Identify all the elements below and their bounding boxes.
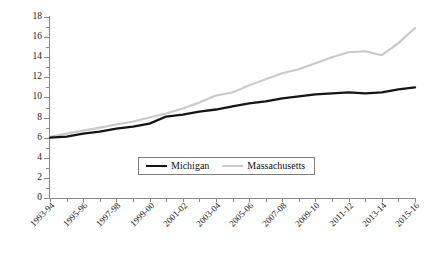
x-tick bbox=[398, 198, 399, 202]
y-tick-label: 10 bbox=[6, 92, 42, 102]
y-tick-label: 18 bbox=[6, 12, 42, 22]
x-tick bbox=[233, 198, 234, 202]
y-tick-label: 2 bbox=[6, 173, 42, 183]
y-tick-minor bbox=[46, 27, 49, 28]
legend-label-michigan: Michigan bbox=[171, 161, 209, 171]
x-tick bbox=[266, 198, 267, 202]
y-tick-minor bbox=[46, 188, 49, 189]
series-line-michigan bbox=[50, 87, 415, 137]
y-tick bbox=[44, 97, 49, 98]
legend-swatch-massachusetts bbox=[222, 165, 243, 167]
x-tick bbox=[365, 198, 366, 202]
y-tick bbox=[44, 158, 49, 159]
legend-label-massachusetts: Massachusetts bbox=[247, 161, 305, 171]
y-tick-label: 16 bbox=[6, 32, 42, 42]
y-tick bbox=[44, 118, 49, 119]
y-tick-minor bbox=[46, 47, 49, 48]
y-tick-minor bbox=[46, 67, 49, 68]
y-tick bbox=[44, 178, 49, 179]
legend-swatch-michigan bbox=[146, 165, 167, 167]
x-tick bbox=[166, 198, 167, 202]
cropped-title-remnant bbox=[0, 0, 427, 9]
x-tick bbox=[100, 198, 101, 202]
y-tick-minor bbox=[46, 108, 49, 109]
legend-item-michigan: Michigan bbox=[146, 161, 209, 171]
y-tick-minor bbox=[46, 168, 49, 169]
series-line-massachusetts bbox=[50, 28, 415, 137]
y-tick-label: 8 bbox=[6, 113, 42, 123]
y-tick-label: 14 bbox=[6, 52, 42, 62]
y-tick-minor bbox=[46, 148, 49, 149]
x-tick bbox=[67, 198, 68, 202]
y-tick-label: 4 bbox=[6, 153, 42, 163]
y-tick bbox=[44, 37, 49, 38]
x-tick bbox=[332, 198, 333, 202]
x-tick bbox=[299, 198, 300, 202]
y-tick bbox=[44, 77, 49, 78]
y-tick bbox=[44, 57, 49, 58]
y-tick bbox=[44, 198, 49, 199]
chart-legend: Michigan Massachusetts bbox=[138, 157, 315, 175]
y-tick bbox=[44, 17, 49, 18]
y-tick-minor bbox=[46, 87, 49, 88]
x-tick bbox=[199, 198, 200, 202]
y-tick-label: 6 bbox=[6, 133, 42, 143]
line-chart: (000s $) 024681012141618 1993-941995-961… bbox=[0, 0, 427, 257]
y-tick-label: 12 bbox=[6, 72, 42, 82]
legend-item-massachusetts: Massachusetts bbox=[222, 161, 305, 171]
y-tick-minor bbox=[46, 128, 49, 129]
y-tick bbox=[44, 138, 49, 139]
y-tick-label: 0 bbox=[6, 193, 42, 203]
x-tick bbox=[133, 198, 134, 202]
